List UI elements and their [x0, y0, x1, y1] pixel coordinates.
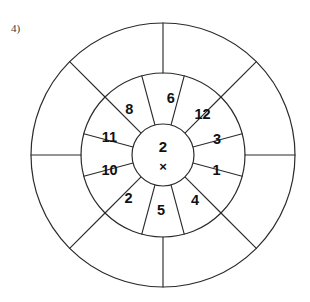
- inner-sector-4: 4: [191, 192, 199, 208]
- worksheet-root: 4) 3126811102541 2 ×: [0, 0, 310, 302]
- inner-sector-10: 10: [101, 162, 117, 178]
- inner-sector-11: 11: [102, 129, 117, 145]
- inner-sector-5: 5: [157, 202, 165, 218]
- multiplication-operator-icon: ×: [159, 159, 167, 174]
- inner-sector-3: 3: [213, 131, 221, 147]
- center-circle: [132, 124, 194, 186]
- center-multiplier-value: 2: [159, 138, 167, 155]
- inner-sector-12: 12: [195, 106, 211, 122]
- multiplication-wheel-diagram: 3126811102541 2 ×: [0, 0, 310, 302]
- inner-sector-6: 6: [167, 90, 175, 106]
- inner-sector-1: 1: [213, 162, 221, 178]
- wheel-group: 3126811102541 2 ×: [31, 23, 295, 287]
- inner-sector-2: 2: [124, 190, 132, 206]
- inner-sector-8: 8: [125, 101, 133, 117]
